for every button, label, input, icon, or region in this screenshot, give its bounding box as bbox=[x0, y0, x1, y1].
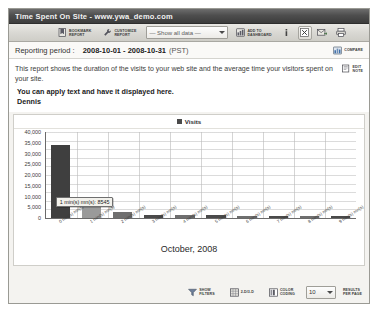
data-filter-value: — Show all data — bbox=[149, 30, 217, 36]
reporting-period-label: Reporting period : bbox=[15, 46, 75, 55]
add-to-dashboard-button[interactable]: ADD TO DASHBOARD bbox=[232, 26, 275, 39]
edit-note-button[interactable]: EDIT NOTE bbox=[342, 64, 363, 73]
y-axis-tick: 15,000 bbox=[25, 183, 42, 189]
edit-note-label: EDIT NOTE bbox=[353, 65, 363, 73]
customize-report-button[interactable]: CUSTOMIZE REPORT bbox=[99, 26, 140, 39]
y-axis-tick: 30,000 bbox=[25, 151, 42, 157]
window-title: Time Spent On Site - www.ywa_demo.com bbox=[15, 12, 173, 21]
bookmark-report-label: BOOKMARK REPORT bbox=[69, 29, 91, 37]
y-axis-tick: 35,000 bbox=[25, 140, 42, 146]
window-titlebar: Time Spent On Site - www.ywa_demo.com bbox=[9, 9, 369, 24]
results-per-page-line2: PER PAGE bbox=[343, 292, 362, 296]
user-note-line2: Dennis bbox=[17, 97, 363, 107]
compare-icon bbox=[333, 46, 342, 55]
reporting-period-bar: Reporting period : 2008-10-01 - 2008-10-… bbox=[9, 42, 369, 59]
filter-icon bbox=[188, 288, 197, 297]
y-axis: 05,00010,00015,00020,00025,00030,00035,0… bbox=[14, 132, 44, 218]
dimension-toggle-line1: 2-D/3-D bbox=[241, 290, 254, 294]
visits-bar-chart: Visits 05,00010,00015,00020,00025,00030,… bbox=[13, 114, 365, 266]
print-report-icon[interactable] bbox=[334, 26, 348, 40]
y-axis-tick: 5,000 bbox=[28, 204, 42, 210]
results-per-page-value: 10 bbox=[309, 289, 325, 295]
add-to-dashboard-line2: DASHBOARD bbox=[247, 33, 271, 37]
customize-report-line1: CUSTOMIZE bbox=[114, 29, 136, 33]
customize-report-line2: REPORT bbox=[114, 33, 136, 37]
report-window: Time Spent On Site - www.ywa_demo.com BO… bbox=[8, 8, 370, 304]
compare-button[interactable]: COMPARE bbox=[333, 46, 363, 55]
data-filter-dropdown[interactable]: — Show all data — bbox=[146, 26, 228, 39]
y-axis-tick: 40,000 bbox=[25, 129, 42, 135]
chevron-down-icon bbox=[327, 291, 333, 294]
chart-tooltip: 1 min(s) mn(s): 8545 bbox=[56, 197, 114, 207]
user-note: You can apply text and have it displayed… bbox=[9, 87, 369, 112]
dimension-toggle-label: 2-D/3-D bbox=[241, 290, 254, 294]
chevron-down-icon bbox=[219, 31, 225, 34]
show-filters-label: SHOW FILTERS bbox=[199, 288, 214, 296]
x-axis-labels: 0 min(s) mn(s)1 min(s) mn(s)2 min(s) mn(… bbox=[45, 220, 356, 244]
bookmark-icon bbox=[58, 28, 67, 37]
palette-icon bbox=[269, 288, 278, 297]
y-axis-tick: 0 bbox=[38, 215, 41, 221]
reporting-period-value[interactable]: 2008-10-01 - 2008-10-31 bbox=[83, 46, 166, 55]
chart-plot-area: 05,00010,00015,00020,00025,00030,00035,0… bbox=[14, 128, 364, 265]
cube-icon bbox=[230, 288, 239, 297]
chart-footer-toolbar: SHOW FILTERS 2-D/3-D COLOR CODING 10 bbox=[9, 281, 369, 303]
user-note-line1: You can apply text and have it displayed… bbox=[17, 87, 363, 97]
help-icon[interactable] bbox=[280, 26, 294, 40]
chart-bar[interactable] bbox=[51, 145, 70, 218]
color-coding-label: COLOR CODING bbox=[280, 288, 295, 296]
y-axis-tick: 25,000 bbox=[25, 161, 42, 167]
bookmark-report-line2: REPORT bbox=[69, 33, 91, 37]
x-axis-title: October, 2008 bbox=[14, 244, 364, 254]
y-axis-tick: 10,000 bbox=[25, 194, 42, 200]
bookmark-report-line1: BOOKMARK bbox=[69, 29, 91, 33]
report-toolbar: BOOKMARK REPORT CUSTOMIZE REPORT — Show … bbox=[9, 24, 369, 42]
dashboard-icon bbox=[236, 28, 245, 37]
color-coding-button[interactable]: COLOR CODING bbox=[265, 286, 299, 299]
report-description: This report shows the duration of the vi… bbox=[9, 59, 369, 87]
results-per-page-label: RESULTS PER PAGE bbox=[343, 288, 362, 296]
wrench-icon bbox=[103, 28, 112, 37]
dimension-toggle-button[interactable]: 2-D/3-D bbox=[226, 286, 258, 299]
export-excel-icon[interactable] bbox=[298, 26, 312, 40]
y-axis-tick: 20,000 bbox=[25, 172, 42, 178]
show-filters-button[interactable]: SHOW FILTERS bbox=[184, 286, 218, 299]
color-coding-line2: CODING bbox=[280, 292, 295, 296]
bookmark-report-button[interactable]: BOOKMARK REPORT bbox=[54, 26, 95, 39]
results-per-page-dropdown[interactable]: 10 bbox=[306, 286, 336, 299]
compare-label: COMPARE bbox=[344, 48, 363, 52]
reporting-period-timezone: (PST) bbox=[169, 46, 189, 55]
customize-report-label: CUSTOMIZE REPORT bbox=[114, 29, 136, 37]
legend-label-visits: Visits bbox=[185, 118, 201, 125]
chart-legend: Visits bbox=[14, 115, 364, 129]
edit-note-icon bbox=[342, 64, 351, 73]
add-to-dashboard-label: ADD TO DASHBOARD bbox=[247, 29, 271, 37]
edit-note-line2: NOTE bbox=[353, 69, 363, 73]
report-description-text: This report shows the duration of the vi… bbox=[15, 64, 342, 83]
legend-swatch-visits bbox=[177, 119, 182, 124]
show-filters-line2: FILTERS bbox=[199, 292, 214, 296]
email-report-icon[interactable] bbox=[316, 26, 330, 40]
